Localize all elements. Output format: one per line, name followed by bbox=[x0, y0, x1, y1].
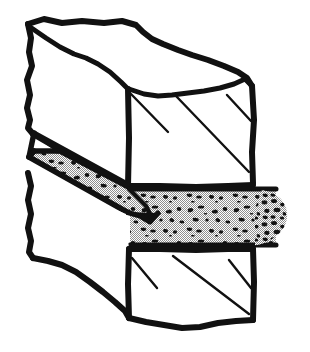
upper-block-corner-edge bbox=[128, 89, 129, 186]
lower-block-top-edge bbox=[129, 249, 253, 250]
lower-section-face bbox=[129, 250, 253, 320]
angled-band-left-notch bbox=[29, 151, 34, 157]
upper-block-right-edge bbox=[252, 86, 254, 183]
cross-section-drawing bbox=[0, 0, 310, 352]
lower-block-right-edge bbox=[253, 249, 254, 320]
lower-block-left-break-edge bbox=[28, 173, 33, 258]
lower-block-corner-edge bbox=[128, 249, 129, 318]
lower-section-fill bbox=[129, 250, 253, 320]
figure-root: Hand-drawn technical cross-section of a … bbox=[0, 0, 310, 352]
